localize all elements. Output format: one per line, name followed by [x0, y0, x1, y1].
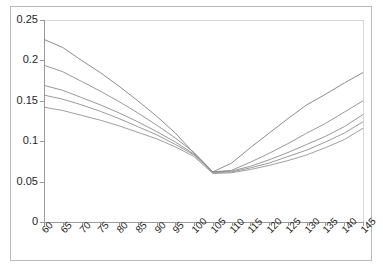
x-axis-tick-label: 125: [284, 216, 303, 235]
x-axis-tick-label: 145: [359, 216, 378, 235]
x-axis-tick-label: 60: [40, 220, 55, 235]
x-axis-tick-label: 90: [153, 220, 168, 235]
x-axis-tick-label: 105: [209, 216, 228, 235]
x-axis-tick-label: 75: [96, 220, 111, 235]
y-axis-tick-mark: [40, 101, 44, 102]
x-axis-tick-label: 80: [115, 220, 130, 235]
x-axis-tick-label: 120: [265, 216, 284, 235]
x-axis-tick-label: 70: [78, 220, 93, 235]
y-axis-tick-label: 0.2: [0, 54, 38, 65]
y-axis-tick-label: 0.1: [0, 135, 38, 146]
y-axis-tick-label: 0.15: [0, 95, 38, 106]
x-axis-tick-label: 65: [59, 220, 74, 235]
y-axis-tick-mark: [40, 60, 44, 61]
x-axis-tick-label: 100: [190, 216, 209, 235]
y-axis-tick-mark: [40, 141, 44, 142]
y-axis-tick-mark: [40, 20, 44, 21]
x-axis-tick-label: 135: [321, 216, 340, 235]
x-axis-tick-label: 95: [171, 220, 186, 235]
x-axis-tick-label: 140: [340, 216, 359, 235]
y-axis-tick-mark: [40, 182, 44, 183]
y-axis-tick-label: 0.25: [0, 14, 38, 25]
y-axis-tick-label: 0.05: [0, 176, 38, 187]
x-axis-tick-label: 85: [134, 220, 149, 235]
x-axis-tick-label: 110: [228, 217, 246, 235]
x-axis-tick-label: 115: [246, 217, 264, 235]
x-axis-tick-label: 130: [303, 216, 322, 235]
chart-container: 00.050.10.150.20.25606570758085909510010…: [0, 0, 383, 272]
y-axis-tick-label: 0: [0, 216, 38, 227]
y-axis-tick-group: 00.050.10.150.20.25606570758085909510010…: [0, 0, 383, 272]
